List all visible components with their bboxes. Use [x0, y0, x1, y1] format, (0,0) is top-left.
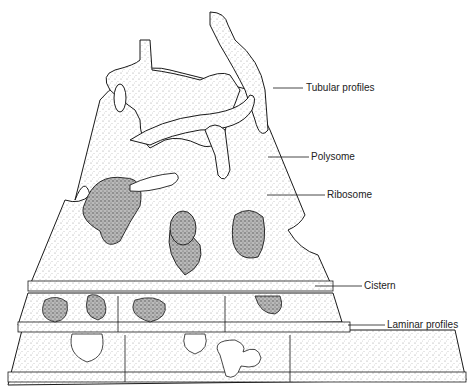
label-laminar-profiles: Laminar profiles — [387, 319, 458, 331]
label-ribosome: Ribosome — [327, 189, 372, 201]
middle-sheet — [18, 293, 350, 332]
label-tubular-profiles: Tubular profiles — [306, 82, 375, 94]
bottom-sheet — [8, 330, 466, 385]
label-cistern: Cistern — [364, 280, 396, 292]
er-diagram: Tubular profiles Polysome Ribosome Ciste… — [0, 0, 469, 390]
er-illustration — [0, 0, 469, 390]
label-polysome: Polysome — [311, 151, 355, 163]
